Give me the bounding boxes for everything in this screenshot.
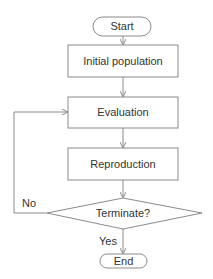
evaluation-label: Evaluation: [68, 107, 178, 118]
terminate-label: Terminate?: [73, 208, 173, 219]
initial-population-label: Initial population: [68, 56, 178, 67]
end-label: End: [100, 256, 147, 267]
start-label: Start: [93, 21, 151, 32]
no-edge-label: No: [22, 198, 36, 209]
reproduction-label: Reproduction: [68, 159, 178, 170]
yes-edge-label: Yes: [99, 236, 117, 247]
